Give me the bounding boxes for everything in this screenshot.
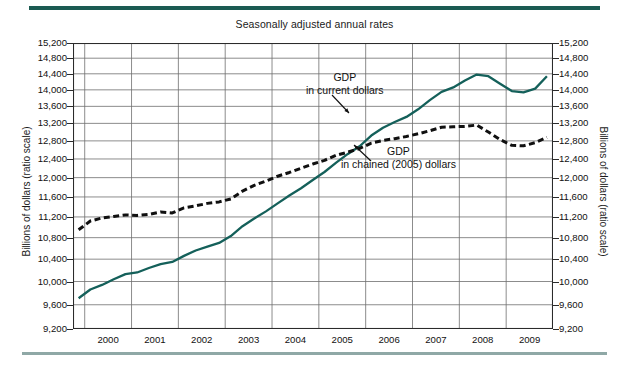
- y-tick-mark: [67, 123, 73, 124]
- y-tick-right-11200: 11,200: [559, 212, 615, 222]
- y-tick-mark: [67, 329, 73, 330]
- y-tick-mark: [553, 58, 559, 59]
- y-tick-mark: [553, 159, 559, 160]
- y-tick-right-10400: 10,400: [559, 254, 615, 264]
- y-tick-left-14400: 14,400: [11, 69, 67, 79]
- x-tick-2001: 2001: [131, 335, 179, 345]
- y-tick-mark: [553, 74, 559, 75]
- y-tick-left-10800: 10,800: [11, 233, 67, 243]
- y-tick-left-14000: 14,000: [11, 85, 67, 95]
- annotation-current-dollars-line1: GDP: [306, 71, 384, 84]
- y-tick-mark: [553, 141, 559, 142]
- y-tick-right-12400: 12,400: [559, 154, 615, 164]
- y-tick-mark: [67, 90, 73, 91]
- y-tick-mark: [67, 259, 73, 260]
- y-tick-mark: [553, 329, 559, 330]
- annotation-current-dollars-line2: in current dollars: [306, 84, 384, 97]
- y-tick-left-12800: 12,800: [11, 136, 67, 146]
- y-tick-left-12000: 12,000: [11, 173, 67, 183]
- annotation-chained-dollars-line2: in chained (2005) dollars: [341, 158, 456, 171]
- x-tick-2008: 2008: [459, 335, 507, 345]
- y-tick-right-14800: 14,800: [559, 53, 615, 63]
- annotation-current-dollars: GDP in current dollars: [306, 71, 384, 96]
- x-tick-2005: 2005: [318, 335, 366, 345]
- y-tick-mark: [67, 238, 73, 239]
- y-tick-right-15200: 15,200: [559, 38, 615, 48]
- y-tick-left-12400: 12,400: [11, 154, 67, 164]
- y-tick-right-9200: 9,200: [559, 324, 615, 334]
- bottom-rule: [22, 352, 607, 355]
- x-tick-2002: 2002: [178, 335, 226, 345]
- y-tick-mark: [553, 197, 559, 198]
- x-tick-2000: 2000: [84, 335, 132, 345]
- y-tick-mark: [553, 178, 559, 179]
- y-tick-right-12800: 12,800: [559, 136, 615, 146]
- y-tick-left-15200: 15,200: [11, 38, 67, 48]
- y-tick-left-11600: 11,600: [11, 192, 67, 202]
- y-tick-mark: [67, 58, 73, 59]
- y-tick-mark: [67, 159, 73, 160]
- y-tick-left-9600: 9,600: [11, 300, 67, 310]
- y-tick-right-10000: 10,000: [559, 277, 615, 287]
- y-tick-right-13200: 13,200: [559, 118, 615, 128]
- annotation-chained-dollars: GDP in chained (2005) dollars: [341, 145, 456, 170]
- y-tick-mark: [553, 305, 559, 306]
- y-tick-right-11600: 11,600: [559, 192, 615, 202]
- y-tick-mark: [67, 305, 73, 306]
- chart-title: Seasonally adjusted annual rates: [0, 18, 629, 30]
- y-tick-mark: [553, 43, 559, 44]
- y-tick-mark: [553, 106, 559, 107]
- annotation-chained-dollars-line1: GDP: [341, 145, 456, 158]
- y-tick-right-14000: 14,000: [559, 85, 615, 95]
- y-tick-left-10000: 10,000: [11, 277, 67, 287]
- y-tick-right-10800: 10,800: [559, 233, 615, 243]
- x-tick-2003: 2003: [225, 335, 273, 345]
- y-tick-mark: [67, 178, 73, 179]
- y-tick-mark: [67, 74, 73, 75]
- y-tick-left-13200: 13,200: [11, 118, 67, 128]
- y-tick-left-9200: 9,200: [11, 324, 67, 334]
- y-tick-right-12000: 12,000: [559, 173, 615, 183]
- x-tick-2004: 2004: [271, 335, 319, 345]
- y-tick-mark: [553, 90, 559, 91]
- y-tick-right-9600: 9,600: [559, 300, 615, 310]
- y-tick-mark: [553, 259, 559, 260]
- top-rule: [29, 6, 600, 10]
- y-tick-mark: [553, 282, 559, 283]
- x-tick-2009: 2009: [506, 335, 554, 345]
- y-tick-mark: [67, 106, 73, 107]
- x-tick-2007: 2007: [412, 335, 460, 345]
- gdp-chart-figure: Seasonally adjusted annual rates Billion…: [0, 0, 629, 372]
- x-tick-2006: 2006: [365, 335, 413, 345]
- y-tick-mark: [67, 43, 73, 44]
- y-tick-mark: [553, 123, 559, 124]
- y-tick-mark: [67, 217, 73, 218]
- y-tick-right-14400: 14,400: [559, 69, 615, 79]
- y-tick-left-11200: 11,200: [11, 212, 67, 222]
- y-tick-left-10400: 10,400: [11, 254, 67, 264]
- y-tick-left-14800: 14,800: [11, 53, 67, 63]
- y-tick-mark: [553, 217, 559, 218]
- y-tick-mark: [67, 197, 73, 198]
- y-tick-mark: [67, 141, 73, 142]
- y-tick-mark: [553, 238, 559, 239]
- y-tick-right-13600: 13,600: [559, 101, 615, 111]
- y-tick-mark: [67, 282, 73, 283]
- y-tick-left-13600: 13,600: [11, 101, 67, 111]
